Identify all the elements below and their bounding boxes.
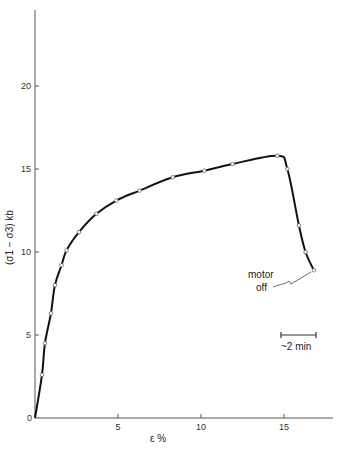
data-point-marker [231,162,235,166]
y-tick-label: 20 [21,81,31,91]
data-point-marker [43,342,47,346]
data-point-marker [276,154,280,158]
data-point-marker [297,224,301,228]
x-tick-label: 10 [196,422,206,432]
data-point-marker [115,199,119,203]
origin-label: 0 [27,413,32,423]
time-scale-bar [281,332,316,338]
motor-off-label-line1: motor [248,269,274,280]
x-ticks: 51015 [115,414,289,432]
data-point-marker [77,230,81,234]
data-point-marker [171,176,175,180]
stress-strain-curve [35,156,314,418]
data-point-marker [304,250,308,254]
data-point-marker [49,312,53,316]
data-point-marker [53,283,57,287]
data-markers [40,154,316,377]
x-tick-label: 15 [279,422,289,432]
y-axis-label: (σ1 − σ3) kb [4,210,15,265]
data-point-marker [95,212,99,216]
data-point-marker [138,189,142,193]
stress-strain-chart: 5101520 51015 0 ε % (σ1 − σ3) kb motor o… [0,0,339,449]
data-point-marker [65,249,69,253]
y-tick-label: 10 [21,247,31,257]
x-tick-label: 5 [115,422,120,432]
y-tick-label: 5 [26,330,31,340]
x-axis-label: ε % [150,433,166,444]
y-tick-label: 15 [21,164,31,174]
motor-off-pointer [273,272,311,287]
time-scale-label: ~2 min [281,341,311,352]
data-point-marker [203,169,207,173]
y-ticks: 5101520 [21,81,39,340]
data-point-marker [286,167,290,171]
motor-off-label-line2: off [256,282,267,293]
data-point-marker [40,373,44,377]
data-point-marker [312,268,316,272]
data-point-marker [60,263,64,267]
